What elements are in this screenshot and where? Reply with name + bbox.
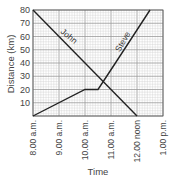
x-axis-title: Time — [88, 166, 109, 177]
x-tick-label: 1.00 p.m. — [158, 120, 168, 155]
y-tick-label: 50 — [20, 45, 30, 55]
x-tick-label: 12.00 noon — [132, 120, 142, 163]
y-tick-label: 40 — [20, 58, 30, 68]
grid — [33, 10, 163, 116]
series-label-john: John — [59, 26, 80, 46]
y-tick-label: 30 — [20, 71, 30, 81]
x-axis-ticks: 8.00 a.m.9.00 a.m.10.00 a.m.11.00 a.m.12… — [28, 120, 168, 163]
y-tick-label: 20 — [20, 85, 30, 95]
x-tick-label: 9.00 a.m. — [54, 120, 64, 155]
x-tick-label: 10.00 a.m. — [80, 120, 90, 160]
y-axis-title: Distance (km) — [5, 35, 16, 94]
x-tick-label: 8.00 a.m. — [28, 120, 38, 155]
x-tick-label: 11.00 a.m. — [106, 120, 116, 160]
y-tick-label: 60 — [20, 32, 30, 42]
y-axis-ticks: 1020304050607080 — [20, 5, 30, 108]
y-tick-label: 70 — [20, 18, 30, 28]
y-tick-label: 80 — [20, 5, 30, 15]
y-tick-label: 10 — [20, 98, 30, 108]
distance-time-chart: 1020304050607080 8.00 a.m.9.00 a.m.10.00… — [0, 0, 171, 181]
